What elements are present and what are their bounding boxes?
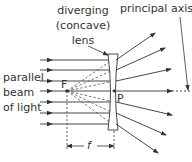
- beam-label-line3: of light: [3, 102, 41, 114]
- lens-pointer-line: [88, 46, 108, 55]
- beam-label-line1: parallel: [3, 72, 44, 84]
- pole-dot: [113, 90, 116, 93]
- focal-point-label: F: [61, 79, 67, 91]
- focal-length-label: f: [87, 140, 91, 152]
- lens-label-line2: (concave): [53, 20, 113, 32]
- lens-label-line1: diverging: [53, 5, 113, 17]
- incoming-rays: [40, 60, 112, 124]
- beam-label-line2: beam: [3, 87, 34, 99]
- lens-label-line3: lens: [53, 35, 113, 47]
- outgoing-rays: [116, 33, 172, 153]
- pole-label: P: [117, 93, 124, 105]
- axis-pointer-line: [180, 17, 188, 90]
- diverging-lens-diagram: diverging (concave) lens principal axis …: [0, 0, 192, 162]
- principal-axis-label: principal axis: [120, 3, 192, 15]
